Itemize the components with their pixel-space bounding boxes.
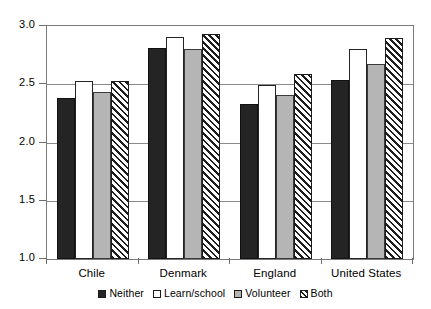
- y-tick-label: 1.5: [19, 194, 35, 205]
- x-tick-mark: [412, 258, 413, 264]
- legend-entry: Both: [300, 288, 333, 299]
- bar: [111, 81, 129, 259]
- legend-label: Volunteer: [245, 288, 290, 299]
- y-tick-mark: [39, 25, 46, 26]
- y-tick-label: 2.5: [19, 77, 35, 88]
- y-tick-mark: [39, 200, 46, 201]
- plot-area: [46, 25, 414, 260]
- y-tick-mark: [39, 258, 46, 259]
- x-category-label: Denmark: [138, 267, 230, 280]
- bar: [294, 74, 312, 259]
- y-tick-mark: [39, 142, 46, 143]
- x-tick-mark: [138, 258, 139, 264]
- legend-swatch-icon: [300, 290, 308, 298]
- y-axis: 1.01.52.02.53.0: [0, 0, 46, 309]
- legend-entry: Learn/school: [153, 288, 225, 299]
- clipped-title-remnant: [46, 0, 412, 7]
- legend-swatch-icon: [234, 290, 242, 298]
- legend-entry: Neither: [98, 288, 144, 299]
- bar: [75, 81, 93, 259]
- bar: [148, 48, 166, 259]
- y-tick-label: 2.0: [19, 136, 35, 147]
- legend-swatch-icon: [153, 290, 161, 298]
- bar-group: [230, 26, 322, 259]
- x-category-label: United States: [321, 267, 413, 280]
- bar: [349, 49, 367, 259]
- bar: [202, 34, 220, 259]
- bar: [57, 98, 75, 259]
- x-tick-mark: [321, 258, 322, 264]
- bar-group: [139, 26, 231, 259]
- bar-group: [322, 26, 414, 259]
- bar: [258, 85, 276, 259]
- bar: [367, 64, 385, 259]
- bar: [276, 95, 294, 259]
- legend-label: Neither: [109, 288, 144, 299]
- x-axis: ChileDenmarkEnglandUnited States: [46, 258, 414, 284]
- bar: [93, 92, 111, 259]
- y-tick-mark: [39, 83, 46, 84]
- legend-entry: Volunteer: [234, 288, 290, 299]
- bar-chart: 1.01.52.02.53.0 ChileDenmarkEnglandUnite…: [0, 0, 431, 309]
- bar: [331, 80, 349, 259]
- bar: [184, 49, 202, 259]
- bar: [240, 104, 258, 259]
- y-tick-label: 3.0: [19, 19, 35, 30]
- bar: [166, 37, 184, 260]
- bar: [385, 38, 403, 259]
- x-tick-mark: [229, 258, 230, 264]
- legend-swatch-icon: [98, 290, 106, 298]
- chart-legend: NeitherLearn/schoolVolunteerBoth: [0, 288, 431, 299]
- legend-label: Both: [311, 288, 333, 299]
- x-tick-mark: [46, 258, 47, 264]
- x-category-label: Chile: [46, 267, 138, 280]
- x-category-label: England: [229, 267, 321, 280]
- bar-group: [47, 26, 139, 259]
- y-tick-label: 1.0: [19, 252, 35, 263]
- legend-label: Learn/school: [164, 288, 225, 299]
